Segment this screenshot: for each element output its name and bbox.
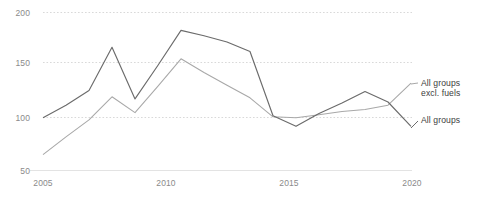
- chart-plot-area: [0, 0, 484, 199]
- y-axis-tick-150: 150: [4, 58, 30, 68]
- series-line-all-groups: [43, 30, 411, 126]
- x-axis-tick-2005: 2005: [23, 178, 63, 188]
- leader-line-excl-fuels: [411, 83, 418, 84]
- x-axis-tick-2020: 2020: [392, 178, 432, 188]
- line-chart: 200 150 100 50 2005 2010 2015 2020 All g…: [0, 0, 484, 199]
- y-axis-tick-200: 200: [4, 8, 30, 18]
- series-label-excl-fuels: All groups excl. fuels: [421, 79, 460, 98]
- series-lines: [43, 30, 411, 154]
- x-axis-tick-2010: 2010: [146, 178, 186, 188]
- series-label-all-groups: All groups: [421, 116, 460, 126]
- y-axis-tick-50: 50: [4, 166, 30, 176]
- x-axis-tick-2015: 2015: [269, 178, 309, 188]
- y-axis-tick-100: 100: [4, 113, 30, 123]
- label-leader-lines: [411, 83, 418, 128]
- leader-line-all-groups: [411, 121, 418, 128]
